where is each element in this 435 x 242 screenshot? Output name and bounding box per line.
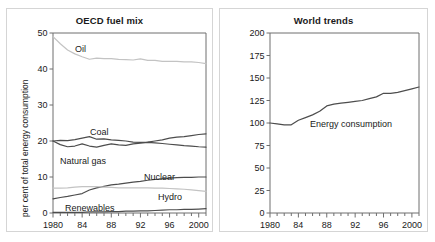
y-tick-label: 175 <box>249 51 264 61</box>
x-tick-label: 84 <box>293 220 303 230</box>
y-tick-label: 100 <box>249 118 264 128</box>
series-label-energy-consumption: Energy consumption <box>310 119 392 129</box>
x-tick-label: 1980 <box>260 220 280 230</box>
y-tick-label: 125 <box>249 96 264 106</box>
y-tick-label: 150 <box>249 73 264 83</box>
series-label-hydro: Hydro <box>158 192 182 202</box>
series-line-coal <box>53 134 206 143</box>
y-tick-label: 40 <box>37 64 47 74</box>
x-tick-label: 88 <box>322 220 332 230</box>
y-tick-label: 200 <box>249 28 264 38</box>
x-tick-label: 96 <box>379 220 389 230</box>
x-tick-label: 92 <box>350 220 360 230</box>
x-tick-label: 2000 <box>402 220 422 230</box>
series-label-nuclear: Nuclear <box>144 172 175 182</box>
x-tick-label: 96 <box>165 220 175 230</box>
y-tick-label: 10 <box>37 172 47 182</box>
y-tick-label: 50 <box>254 163 264 173</box>
x-tick-label: 1980 <box>43 220 63 230</box>
y-tick-label: 75 <box>254 141 264 151</box>
y-tick-label: 25 <box>254 186 264 196</box>
plot-area-left: 010203040501980848892962000OilCoalNatura… <box>7 9 214 233</box>
y-tick-label: 30 <box>37 100 47 110</box>
x-tick-label: 2000 <box>189 220 209 230</box>
series-label-coal: Coal <box>90 127 109 137</box>
y-tick-label: 0 <box>259 208 264 218</box>
series-label-renewables: Renewables <box>65 203 115 213</box>
panel-oecd-fuel-mix: OECD fuel mix per cent of total energy c… <box>6 8 213 232</box>
x-tick-label: 92 <box>135 220 145 230</box>
plot-area-right: 02550751001251501752001980848892962000En… <box>220 9 429 233</box>
series-line-hydro <box>53 187 206 192</box>
y-tick-label: 0 <box>42 208 47 218</box>
x-tick-label: 88 <box>106 220 116 230</box>
panel-world-trends: World trends Index: 1900 – 100 025507510… <box>219 8 428 232</box>
y-tick-label: 50 <box>37 28 47 38</box>
cropped-caption-remnant <box>215 0 375 3</box>
series-label-oil: Oil <box>75 44 86 54</box>
y-tick-label: 20 <box>37 136 47 146</box>
figure-container: OECD fuel mix per cent of total energy c… <box>0 0 435 242</box>
x-tick-label: 84 <box>77 220 87 230</box>
series-label-natural-gas: Natural gas <box>60 156 107 166</box>
